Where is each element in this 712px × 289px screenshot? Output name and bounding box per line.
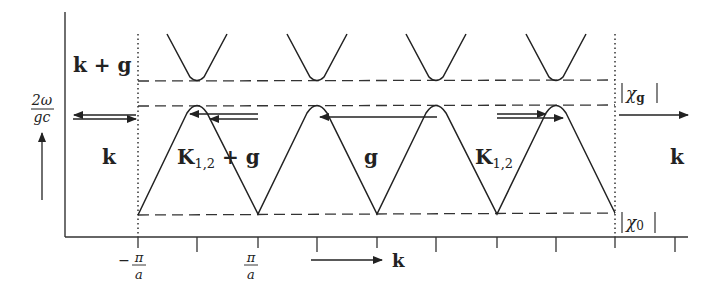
tick-label-minus-pi-over-a: − π a bbox=[118, 250, 146, 282]
svg-text:π: π bbox=[246, 250, 256, 265]
y-label-numerator: 2ω bbox=[31, 92, 53, 108]
svg-text:−: − bbox=[118, 252, 130, 268]
label-k-plus-g: k + g bbox=[73, 53, 132, 77]
label-chi-g: χg bbox=[622, 83, 657, 105]
label-g: g bbox=[364, 145, 378, 169]
svg-text:π: π bbox=[134, 250, 144, 265]
tick-label-pi-over-a: π a bbox=[244, 250, 258, 282]
label-chi-0: χ0 bbox=[622, 212, 655, 233]
label-k-left: k bbox=[102, 145, 117, 169]
svg-text:χg: χg bbox=[625, 83, 645, 105]
zone-boundaries bbox=[138, 34, 615, 237]
x-axis-ticks bbox=[138, 237, 675, 252]
y-label-denominator: gc bbox=[34, 109, 51, 125]
dispersion-diagram: 2ω gc k + g k k K1,2 + g g K1,2 χg χ0 − … bbox=[0, 0, 712, 289]
label-K12-plus-g: K1,2 + g bbox=[177, 145, 260, 171]
y-axis-label: 2ω gc bbox=[31, 92, 54, 125]
transition-arrows bbox=[42, 114, 688, 260]
label-K12: K1,2 bbox=[475, 145, 513, 171]
x-axis-label-k: k bbox=[392, 250, 405, 271]
upper-gap-bottom-line bbox=[138, 105, 615, 106]
svg-text:a: a bbox=[135, 267, 143, 282]
upper-band-curves bbox=[167, 34, 586, 81]
upper-gap-top-line bbox=[138, 80, 615, 81]
axes bbox=[65, 12, 688, 237]
svg-text:χ0: χ0 bbox=[625, 212, 644, 233]
label-k-right: k bbox=[670, 145, 685, 169]
svg-text:a: a bbox=[247, 267, 255, 282]
